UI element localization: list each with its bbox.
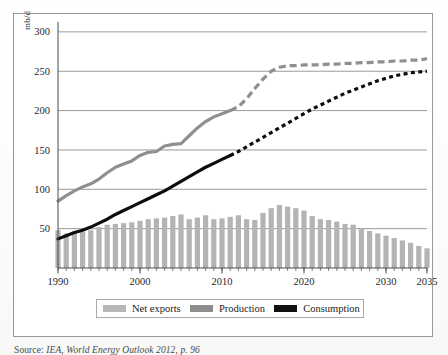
legend-label-production: Production xyxy=(219,303,265,314)
legend-item-net-exports: Net exports xyxy=(97,303,184,314)
svg-text:2030: 2030 xyxy=(376,276,397,287)
legend-label-net-exports: Net exports xyxy=(132,303,181,314)
legend-swatch-net-exports xyxy=(103,305,126,312)
svg-text:1990: 1990 xyxy=(48,276,69,287)
production-line xyxy=(58,59,427,201)
svg-text:300: 300 xyxy=(34,26,50,37)
chart-legend: Net exports Production Consumption xyxy=(96,299,364,318)
caption-source-prefix: Source: xyxy=(14,345,44,355)
svg-text:250: 250 xyxy=(34,66,50,77)
legend-item-production: Production xyxy=(184,303,268,314)
legend-label-consumption: Consumption xyxy=(303,303,360,314)
legend-item-consumption: Consumption xyxy=(268,303,363,314)
figure-container: mb/d 50100150200250300 19902000201020202… xyxy=(0,0,448,355)
y-tick-labels: 50100150200250300 xyxy=(34,26,50,234)
x-tick-marks xyxy=(58,268,427,274)
svg-text:100: 100 xyxy=(34,184,50,195)
svg-text:2000: 2000 xyxy=(130,276,151,287)
net-exports-bars xyxy=(55,205,429,268)
svg-text:2010: 2010 xyxy=(212,276,233,287)
svg-text:2035: 2035 xyxy=(417,276,438,287)
consumption-line xyxy=(58,71,427,239)
svg-text:50: 50 xyxy=(40,223,51,234)
caption-source-text: IEA, World Energy Outlook 2012, p. 96 xyxy=(46,345,200,355)
svg-text:150: 150 xyxy=(34,145,50,156)
legend-swatch-consumption xyxy=(274,305,297,312)
svg-text:200: 200 xyxy=(34,105,50,116)
figure-caption: Source: IEA, World Energy Outlook 2012, … xyxy=(14,345,434,355)
svg-text:2020: 2020 xyxy=(294,276,315,287)
x-tick-labels: 199020002010202020302035 xyxy=(48,276,438,287)
legend-swatch-production xyxy=(190,305,213,312)
